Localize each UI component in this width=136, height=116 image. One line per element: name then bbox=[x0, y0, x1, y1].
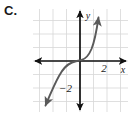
y-axis-label: y bbox=[85, 10, 91, 21]
coordinate-plane: 2 −2 x y bbox=[33, 9, 128, 112]
x-axis-label: x bbox=[120, 64, 126, 75]
y-tick-label-minus-2: −2 bbox=[59, 82, 72, 94]
choice-letter-label: C. bbox=[4, 4, 17, 18]
multiple-choice-graph-figure: C. bbox=[0, 0, 136, 116]
graph-svg: 2 −2 x y bbox=[33, 9, 128, 112]
x-tick-label-2: 2 bbox=[101, 62, 107, 74]
